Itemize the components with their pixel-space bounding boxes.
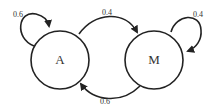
node-m-label: M — [148, 52, 160, 67]
edge-a-m — [79, 16, 137, 34]
node-a: A — [31, 31, 89, 89]
edge-a-m-label: 0.4 — [102, 8, 112, 17]
edge-m-m-label: 0.4 — [193, 10, 203, 19]
edge-m-m — [171, 17, 201, 51]
edge-m-a-label: 0.6 — [100, 97, 110, 106]
edge-a-a — [21, 14, 49, 46]
node-a-label: A — [55, 52, 65, 67]
edge-a-a-label: 0.6 — [13, 10, 23, 19]
markov-diagram: A M 0.6 0.4 0.4 0.6 — [0, 0, 215, 107]
node-m: M — [125, 31, 183, 89]
edge-m-a — [81, 84, 140, 99]
